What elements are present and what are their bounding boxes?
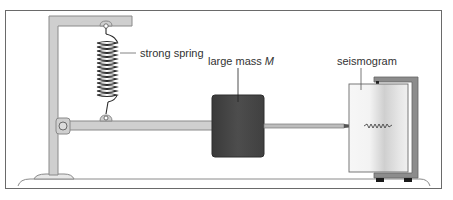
seismogram-label: seismogram (337, 55, 397, 67)
strong-spring-label: strong spring (140, 47, 204, 59)
seismometer-diagram (0, 0, 453, 200)
spring-top-mount (100, 21, 112, 28)
ground-base (18, 174, 430, 186)
support-frame (49, 16, 132, 175)
seismogram-drum (349, 84, 408, 172)
large-mass-label: large mass M (208, 55, 274, 67)
large-mass (212, 95, 264, 157)
hinge-pivot (56, 118, 70, 134)
large-mass-label-text: large mass (208, 55, 265, 67)
lever-arm (68, 121, 214, 130)
mass-symbol: M (265, 55, 274, 67)
strong-spring (97, 28, 117, 114)
spring-bottom-mount (100, 115, 112, 121)
